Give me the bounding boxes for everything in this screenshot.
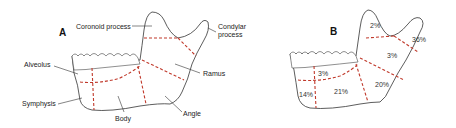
label-angle: Angle [183, 110, 201, 118]
label-ramus: Ramus [203, 70, 226, 77]
mandible-fracture-diagram: A Coronoid process Condylarprocess Alveo… [0, 0, 456, 128]
pct-coronoid: 2% [370, 22, 380, 29]
label-alveolus: Alveolus [24, 61, 51, 68]
pct-angle: 20% [375, 81, 389, 88]
panel-a-label: A [59, 27, 66, 38]
pct-symphysis: 14% [299, 91, 313, 98]
panel-b: B 2% 36% 3% 3% 20% 21% 14% [290, 10, 426, 109]
pct-condylar: 36% [412, 36, 426, 43]
pct-ramus: 3% [387, 52, 397, 59]
panel-a: A Coronoid process Condylarprocess Alveo… [22, 12, 247, 123]
label-coronoid-process: Coronoid process [76, 23, 131, 31]
label-body: Body [115, 115, 131, 123]
pct-alveolus: 3% [318, 70, 328, 77]
label-condylar-process: Condylarprocess [218, 23, 247, 39]
pct-body: 21% [334, 88, 348, 95]
panel-b-label: B [330, 26, 337, 37]
label-symphysis: Symphysis [22, 100, 56, 108]
